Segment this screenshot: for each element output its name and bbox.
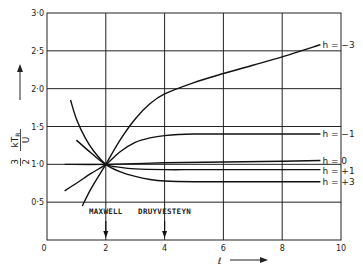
series-line xyxy=(76,140,320,170)
y-axis-arrow-icon xyxy=(17,64,23,72)
down-arrow-icon xyxy=(162,231,167,238)
series-label: h = +1 xyxy=(322,166,354,176)
y-tick-label: 0·5 xyxy=(31,198,44,207)
series-label: h = −3 xyxy=(322,40,354,50)
x-tick-label: 0 xyxy=(41,244,46,253)
y-tick-label: 2·0 xyxy=(31,85,44,94)
annotation-label: DRUYVESTEYN xyxy=(138,207,191,216)
y-tick-label: 3·0 xyxy=(31,9,44,18)
y-tick-label: 1·0 xyxy=(31,160,44,169)
x-tick-label: 2 xyxy=(103,244,108,253)
y-axis-label: 3 2 kTR U xyxy=(10,64,31,166)
y-label-prefix-num: 3 xyxy=(10,159,20,165)
x-label-text: ℓ xyxy=(217,256,222,266)
x-tick-label: 8 xyxy=(280,244,285,253)
grid xyxy=(47,13,341,240)
x-tick-label: 4 xyxy=(162,244,167,253)
chart: h = −3h = −1h = 0h = +1h = +3 02468100·5… xyxy=(0,0,363,271)
series-label: h = −1 xyxy=(322,129,354,139)
down-arrow-icon xyxy=(103,231,108,238)
x-tick-label: 10 xyxy=(336,244,346,253)
y-tick-label: 2·5 xyxy=(31,47,44,56)
axis-ticks: 02468100·51·01·52·02·53·0 xyxy=(31,9,346,253)
x-axis-arrow-icon xyxy=(260,257,268,263)
y-label-prefix-den: 2 xyxy=(21,159,31,165)
annotations: MAXWELLDRUYVESTEYN xyxy=(89,207,191,238)
annotation-label: MAXWELL xyxy=(89,207,123,216)
series-labels: h = −3h = −1h = 0h = +1h = +3 xyxy=(322,40,354,187)
y-label-num-main: kT xyxy=(10,136,20,147)
x-axis-label: ℓ xyxy=(217,256,268,266)
series-label: h = 0 xyxy=(322,156,347,166)
y-label-den: U xyxy=(21,137,31,144)
series-label: h = +3 xyxy=(322,177,354,187)
x-tick-label: 6 xyxy=(221,244,226,253)
y-label-num-sub: R xyxy=(14,133,21,137)
y-tick-label: 1·5 xyxy=(31,123,44,132)
y-label-num: kTR xyxy=(10,133,21,148)
